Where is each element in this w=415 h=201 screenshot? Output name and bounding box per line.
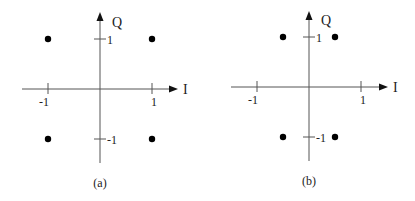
q-axis-label: Q [112, 15, 122, 30]
constellation-point [149, 136, 155, 142]
y-tick-label: 1 [316, 31, 322, 45]
constellation-point [45, 136, 51, 142]
constellation-point [332, 134, 338, 140]
x-tick-label: -1 [39, 95, 49, 109]
constellation-point [280, 34, 286, 40]
i-axis-label: I [183, 82, 188, 97]
x-tick-label: -1 [248, 93, 258, 107]
i-axis-label: I [393, 80, 398, 95]
y-ticks: 1-1 [303, 31, 326, 145]
x-tick-label: 1 [360, 93, 366, 107]
y-tick-label: -1 [107, 133, 117, 147]
constellation-diagrams: I Q -11 1-1 (a) I Q -11 1-1 (b) [0, 0, 415, 201]
constellation-point [332, 34, 338, 40]
y-ticks: 1-1 [94, 33, 117, 147]
panel-a-constellation: I Q -11 1-1 (a) [22, 12, 188, 190]
x-tick-label: 1 [151, 95, 157, 109]
panel-b-constellation: I Q -11 1-1 (b) [231, 11, 398, 188]
q-axis-label: Q [321, 13, 331, 28]
q-axis-arrow-icon [306, 11, 313, 20]
x-ticks: -11 [248, 81, 366, 107]
constellation-point [45, 36, 51, 42]
x-ticks: -11 [39, 83, 157, 109]
constellation-point [280, 134, 286, 140]
constellation-point [149, 36, 155, 42]
y-tick-label: 1 [107, 33, 113, 47]
panel-caption: (b) [302, 174, 316, 188]
panel-caption: (a) [93, 176, 106, 190]
q-axis-arrow-icon [97, 12, 104, 21]
i-axis-arrow-icon [169, 86, 178, 93]
i-axis-arrow-icon [379, 84, 388, 91]
y-tick-label: -1 [316, 131, 326, 145]
